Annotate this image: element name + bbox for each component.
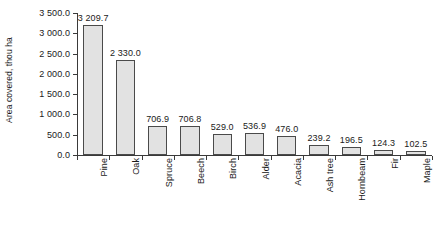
x-axis-category-label: Spruce [163,158,175,224]
x-axis-category-label: Alder [260,158,272,224]
bar-value-label: 536.9 [243,121,266,131]
bar-value-label: 124.3 [372,138,395,148]
plot-area: 3 209.72 330.0706.9706.8529.0536.9476.02… [77,13,432,155]
y-axis-tick-label: 2 500.0 [39,49,70,59]
bar [213,134,232,155]
bar [342,147,361,155]
y-axis-tick-label: 1 000.0 [39,109,70,119]
bar-value-label: 706.9 [146,114,169,124]
bar [406,151,425,155]
bar-value-label: 3 209.7 [78,13,109,23]
x-axis-category-labels: PineOakSpruceBeechBirchAlderAcaciaAsh tr… [77,158,432,225]
bar-value-label: 196.5 [340,135,363,145]
bar-chart: Area covered, thou ha 0.0500.01 000.01 5… [0,0,440,225]
bar [116,60,135,155]
x-axis-category-label: Maple [421,158,433,224]
x-axis-category-label: Beech [195,158,207,224]
bar [148,126,167,155]
x-axis-category-label: Hornbeam [356,158,368,224]
bar [83,25,102,155]
y-axis-tick-mark [73,54,77,55]
bar-value-label: 102.5 [404,139,427,149]
bar [309,145,328,155]
bar-value-label: 239.2 [308,133,331,143]
y-axis-title-text: Area covered, thou ha [4,37,14,123]
y-axis-tick-label: 3 500.0 [39,8,70,18]
bar [245,133,264,155]
x-axis-category-label: Acacia [292,158,304,224]
bar [374,150,393,155]
y-axis-tick-label: 500.0 [47,130,70,140]
x-axis-category-label: Fir [389,158,401,224]
bar [277,136,296,155]
bar-value-label: 476.0 [275,124,298,134]
x-axis-line [77,155,432,156]
x-axis-category-label: Birch [227,158,239,224]
bar-value-label: 529.0 [211,122,234,132]
y-axis-tick-label: 3 000.0 [39,28,70,38]
bar-value-label: 2 330.0 [110,48,141,58]
y-axis-title: Area covered, thou ha [0,0,18,160]
bar-series: 3 209.72 330.0706.9706.8529.0536.9476.02… [77,13,432,155]
y-axis-tick-mark [73,74,77,75]
bar-value-label: 706.8 [178,114,201,124]
y-axis-tick-label: 0.0 [57,150,70,160]
y-axis-tick-mark [73,94,77,95]
y-axis-tick-mark [73,114,77,115]
y-axis-tick-label: 2 000.0 [39,69,70,79]
y-axis-tick-label: 1 500.0 [39,89,70,99]
x-axis-category-label: Pine [98,158,110,224]
y-axis-tick-labels: 0.0500.01 000.01 500.02 000.02 500.03 00… [18,8,70,158]
x-axis-category-label: Oak [130,158,142,224]
y-axis-tick-mark [73,13,77,14]
y-axis-tick-mark [73,33,77,34]
bar [180,126,199,155]
x-axis-category-label: Ash tree [324,158,336,224]
y-axis-tick-mark [73,135,77,136]
